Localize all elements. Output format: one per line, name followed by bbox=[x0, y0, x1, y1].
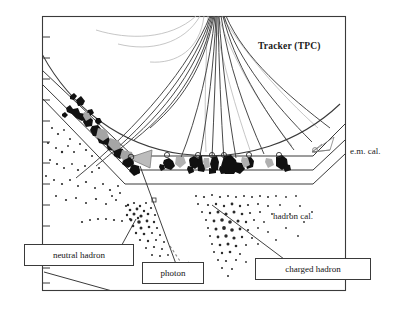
event-display-figure: Tracker (TPC) e.m. cal. hadron cal. neut… bbox=[0, 0, 395, 309]
callout-leader-lines bbox=[118, 166, 288, 264]
callout-neutral-hadron[interactable]: neutral hadron bbox=[24, 244, 134, 266]
callout-charged-hadron-label: charged hadron bbox=[285, 264, 341, 274]
em-shower-cone-icon bbox=[312, 137, 334, 152]
callout-photon-label: photon bbox=[160, 268, 185, 278]
detector-endcap-line bbox=[44, 272, 130, 296]
callout-charged-hadron[interactable]: charged hadron bbox=[255, 258, 371, 280]
tracker-label: Tracker (TPC) bbox=[258, 41, 321, 51]
tracker-outer-wall bbox=[42, 54, 340, 156]
hadron-cal-label: hadron cal. bbox=[273, 211, 313, 221]
callout-neutral-hadron-label: neutral hadron bbox=[53, 250, 105, 260]
em-cal-label: e.m. cal. bbox=[350, 146, 381, 156]
callout-photon[interactable]: photon bbox=[142, 262, 204, 284]
background-tracks bbox=[96, 16, 318, 152]
